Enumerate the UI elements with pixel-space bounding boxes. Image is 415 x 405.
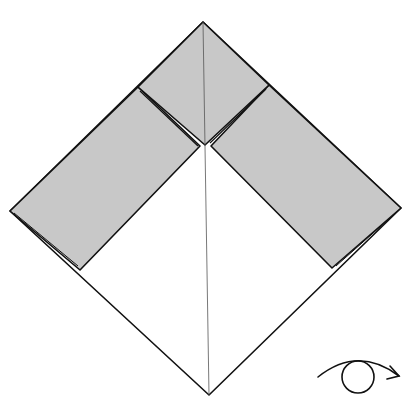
diagram-canvas	[0, 0, 415, 405]
turn-over-arc-icon	[318, 361, 399, 377]
origami-diagram	[0, 0, 415, 405]
turn-over-symbol	[318, 361, 399, 393]
turn-over-circle-icon	[342, 361, 374, 393]
